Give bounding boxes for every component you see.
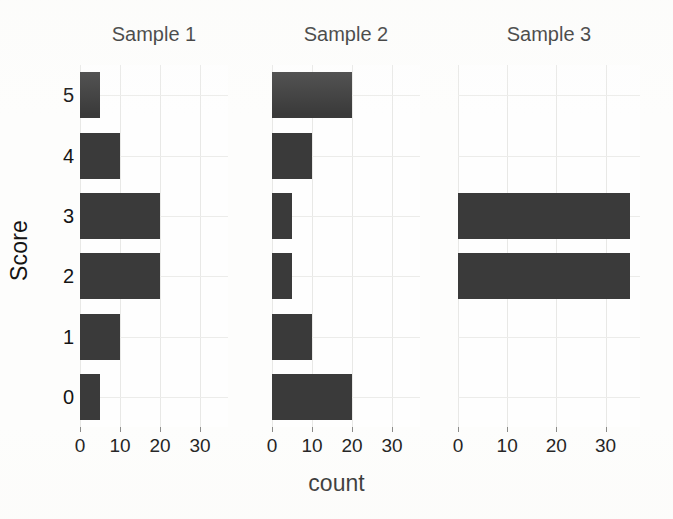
gridline-vertical-20 [160,65,161,427]
panel-2: Sample 20102030 [272,65,420,427]
y-tick-label-5: 5 [38,85,74,105]
y-axis-tick-labels: 543210 [38,65,74,427]
x-tick-label-0: 0 [252,435,292,457]
x-axis-ticks-2: 0102030 [272,427,420,467]
y-tick-label-0: 0 [38,387,74,407]
x-tick-mark-30 [200,427,201,432]
x-tick-label-20: 20 [536,435,576,457]
gridline-horizontal-1 [458,337,640,338]
x-tick-mark-10 [120,427,121,432]
x-tick-mark-10 [507,427,508,432]
bar-panel2-score2 [272,253,292,299]
gridline-horizontal-5 [80,95,228,96]
y-tick-label-3: 3 [38,206,74,226]
bar-panel1-score2 [80,253,160,299]
x-tick-label-10: 10 [292,435,332,457]
gridline-vertical-30 [392,65,393,427]
gridline-vertical-30 [606,65,607,427]
gridline-vertical-0 [272,65,273,427]
x-tick-label-20: 20 [332,435,372,457]
x-axis-ticks-1: 0102030 [80,427,228,467]
x-axis-label-text: count [308,470,364,496]
x-tick-label-0: 0 [438,435,478,457]
gridline-vertical-0 [458,65,459,427]
bar-panel2-score4 [272,133,312,179]
bar-panel1-score0 [80,374,100,420]
x-tick-mark-20 [160,427,161,432]
panel-title-3: Sample 3 [458,23,640,46]
bar-panel1-score3 [80,193,160,239]
plot-area-3 [458,65,640,427]
x-tick-mark-10 [312,427,313,432]
x-tick-mark-20 [352,427,353,432]
x-axis-ticks-3: 0102030 [458,427,640,467]
gridline-vertical-30 [200,65,201,427]
gridline-vertical-0 [80,65,81,427]
gridline-vertical-10 [312,65,313,427]
x-tick-mark-30 [606,427,607,432]
x-tick-mark-20 [556,427,557,432]
bar-panel2-score3 [272,193,292,239]
x-tick-mark-30 [392,427,393,432]
bar-chart-figure: Score 543210 Sample 10102030Sample 20102… [0,0,673,519]
y-tick-label-1: 1 [38,327,74,347]
gridline-vertical-10 [120,65,121,427]
panel-title-2: Sample 2 [272,23,420,46]
x-tick-mark-0 [80,427,81,432]
x-tick-label-20: 20 [140,435,180,457]
bar-panel2-score1 [272,314,312,360]
x-tick-label-10: 10 [100,435,140,457]
y-tick-label-2: 2 [38,266,74,286]
gridline-horizontal-0 [458,397,640,398]
gridline-horizontal-0 [80,397,228,398]
x-tick-label-10: 10 [487,435,527,457]
panel-3: Sample 30102030 [458,65,640,427]
plot-area-2 [272,65,420,427]
gridline-horizontal-4 [458,156,640,157]
y-tick-label-4: 4 [38,146,74,166]
gridline-horizontal-5 [458,95,640,96]
bar-panel2-score0 [272,374,352,420]
bar-panel3-score2 [458,253,630,299]
x-axis-label: count [0,470,673,497]
panel-1: Sample 10102030 [80,65,228,427]
x-tick-label-30: 30 [586,435,626,457]
bar-panel1-score1 [80,314,120,360]
bar-panel1-score5 [80,72,100,118]
y-axis-label: Score [0,180,40,320]
x-tick-label-30: 30 [180,435,220,457]
x-tick-mark-0 [272,427,273,432]
x-tick-mark-0 [458,427,459,432]
gridline-vertical-20 [556,65,557,427]
x-tick-label-30: 30 [372,435,412,457]
gridline-vertical-20 [352,65,353,427]
bar-panel3-score3 [458,193,630,239]
panel-title-1: Sample 1 [80,23,228,46]
bar-panel2-score5 [272,72,352,118]
gridline-horizontal-2 [272,276,420,277]
gridline-horizontal-3 [272,216,420,217]
x-tick-label-0: 0 [60,435,100,457]
plot-area-1 [80,65,228,427]
y-axis-label-text: Score [7,219,34,280]
gridline-vertical-10 [507,65,508,427]
bar-panel1-score4 [80,133,120,179]
